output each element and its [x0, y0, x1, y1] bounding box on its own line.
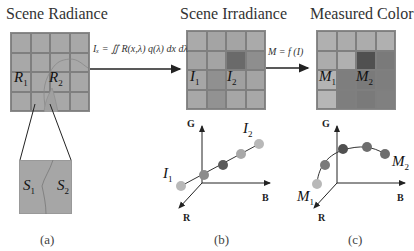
axis-r-c: R	[318, 212, 325, 223]
caption-c: (c)	[348, 232, 362, 248]
axis-b-c: B	[397, 192, 404, 203]
plot-label-m1: M1	[297, 188, 314, 207]
plot-label-i1: I1	[163, 165, 173, 184]
caption-b: (b)	[214, 232, 229, 248]
caption-a: (a)	[40, 232, 54, 248]
axis-g-b: G	[187, 118, 195, 129]
axis-b-b: B	[262, 192, 269, 203]
plot-label-m2: M2	[392, 153, 409, 172]
axis-g-c: G	[322, 118, 330, 129]
plot-label-i2: I2	[243, 120, 253, 139]
zoom-line-right	[50, 104, 71, 160]
axis-r-b: R	[183, 212, 190, 223]
irradiance-plot	[176, 126, 270, 208]
patch-boundary	[42, 160, 53, 214]
zoom-line-left	[20, 104, 35, 160]
